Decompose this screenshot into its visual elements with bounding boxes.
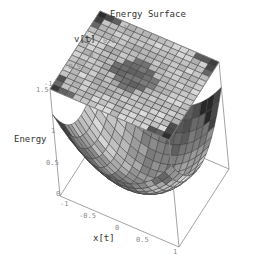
y-tick-label: 0.5 [103, 38, 116, 45]
z-tick-label: 1 [51, 128, 55, 135]
y-tick-label: -0.5 [64, 64, 81, 71]
x-tick-label: 0.5 [136, 237, 149, 244]
chart-title: Energy Surface [110, 10, 186, 19]
y-axis-label: v[t] [74, 35, 96, 44]
x-tick-label: -1 [60, 201, 68, 208]
y-tick-label: 1 [123, 25, 127, 32]
x-axis-label: x[t] [93, 234, 115, 243]
z-tick-label: 1.5 [36, 87, 49, 94]
x-tick-label: -0.5 [79, 213, 96, 220]
z-tick-label: 0.5 [46, 160, 59, 167]
x-tick-label: 1 [173, 249, 177, 256]
z-tick-label: 0 [56, 191, 60, 198]
z-axis-label: Energy [14, 135, 47, 144]
x-tick-label: 0 [115, 225, 119, 232]
y-tick-label: 0 [89, 53, 93, 60]
